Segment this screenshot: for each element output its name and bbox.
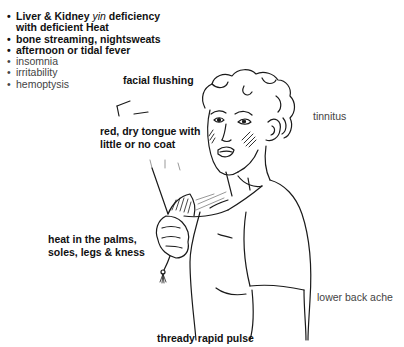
label-facial-flushing: facial flushing — [123, 74, 194, 87]
label-lower-back-ache: lower back ache — [317, 291, 393, 304]
label-heat-line2: soles, legs & kness — [48, 246, 145, 259]
label-tongue-line2: little or no coat — [100, 138, 175, 151]
label-tongue-line1: red, dry tongue with — [100, 125, 200, 138]
label-thready-rapid-pulse: thready rapid pulse — [157, 332, 254, 345]
label-tinnitus: tinnitus — [313, 110, 346, 123]
label-heat-line1: heat in the palms, — [48, 233, 137, 246]
